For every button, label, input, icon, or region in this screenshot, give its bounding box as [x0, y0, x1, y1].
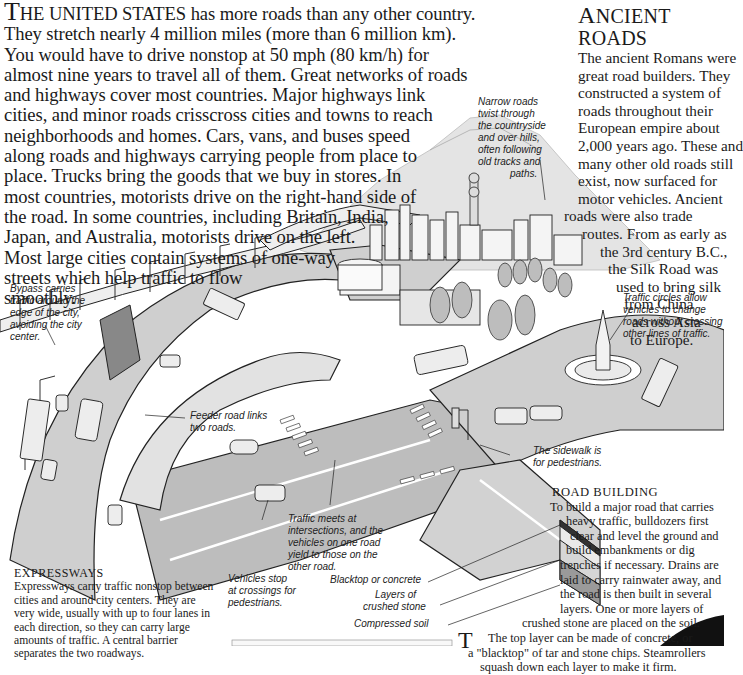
caption-line: center. — [10, 331, 85, 343]
caption-line: and over hills, — [478, 132, 546, 144]
caption-line: twist through — [478, 108, 546, 120]
intro-line: You would have to drive nonstop at 50 mp… — [4, 45, 564, 65]
caption-line: vehicles on one road — [288, 537, 383, 549]
ancient-line: European empire about — [578, 119, 724, 137]
road-building-line: clear and level the ground and — [570, 529, 724, 544]
caption-line: edge of the city, — [10, 307, 85, 319]
caption-blacktop: Blacktop or concrete — [330, 574, 421, 586]
ancient-line: motor vehicles. Ancient — [578, 190, 724, 208]
caption-crushed-stone: Layers of crushed stone — [363, 589, 426, 613]
ancient-line: roads throughout their — [578, 102, 724, 120]
road-building-line: layers. One or more layers of — [560, 602, 724, 617]
ancient-roads-title: ANCIENT ROADS — [578, 4, 724, 49]
expressways-line: cities and around city centers. They are — [14, 594, 254, 607]
caption-line: traffic around the — [10, 295, 85, 307]
road-building-line: The top layer can be made of concrete, o… — [488, 631, 724, 646]
expressways-line: amounts of traffic. A central barrier — [14, 634, 254, 647]
expressways-line: each direction, so they can carry large — [14, 621, 254, 634]
caption-feeder-road: Feeder road links two roads. — [190, 410, 267, 434]
caption-line: Feeder road links — [190, 410, 267, 422]
road-building-line: a "blacktop" of tar and stone chips. Ste… — [468, 646, 724, 661]
caption-compressed-soil: Compressed soil — [354, 618, 428, 630]
caption-line: crushed stone — [363, 601, 426, 613]
road-building-section: ROAD BUILDING To build a major road that… — [488, 485, 724, 675]
caption-line: other lines of traffic. — [623, 328, 723, 340]
caption-sidewalk: The sidewalk is for pedestrians. — [533, 445, 602, 469]
caption-line: avoiding the city — [10, 319, 85, 331]
caption-line: roads without crossing — [623, 316, 723, 328]
caption-narrow-roads: Narrow roads twist through the countrysi… — [478, 96, 546, 180]
ancient-line: The ancient Romans were — [578, 49, 724, 67]
caption-line: Traffic meets at — [288, 513, 383, 525]
road-building-line: trenches if necessary. Drains are — [560, 558, 724, 573]
ancient-line: the Silk Road was — [608, 260, 724, 278]
caption-line: Layers of — [375, 589, 426, 601]
road-building-line: crushed stone are placed on the soil. — [522, 616, 724, 631]
car-feeder — [230, 440, 258, 454]
road-building-line: heavy traffic, bulldozers first — [566, 514, 724, 529]
ancient-line: the 3rd century B.C., — [600, 243, 724, 261]
intro-dropcap: T — [4, 0, 20, 26]
car-right — [530, 406, 562, 420]
caption-traffic-meets: Traffic meets at intersections, and the … — [288, 513, 383, 573]
caption-line: often following — [478, 144, 546, 156]
road-building-line: To build a major road that carries — [550, 500, 724, 515]
intro-line: smoothly. — [4, 288, 564, 308]
road-building-title: ROAD BUILDING — [552, 485, 724, 500]
intro-smallcaps: HE UNITED STATES — [20, 3, 186, 24]
intro-line: Most large cities contain systems of one… — [4, 248, 564, 268]
caption-line: old tracks and — [478, 156, 546, 168]
intro-line: streets which help traffic to flow — [4, 268, 564, 288]
road-building-line: the road is then built in several — [560, 587, 724, 602]
ancient-line: constructed a system of — [578, 84, 724, 102]
intro-line: Japan, and Australia, motorists drive on… — [4, 227, 564, 247]
intro-line: has more roads than any other country. — [186, 3, 475, 24]
road-building-line: build embankments or dig — [566, 543, 724, 558]
ancient-line: routes. From as early as — [582, 225, 724, 243]
expressways-line: very wide, usually with up to four lanes… — [14, 607, 254, 620]
van-right — [495, 408, 527, 424]
caption-line: Narrow roads — [478, 96, 546, 108]
ancient-line: exist, now surfaced for — [578, 172, 724, 190]
expressways-line: Expressways carry traffic nonstop betwee… — [14, 580, 254, 593]
intro-line: the road. In some countries, including B… — [4, 207, 564, 227]
caption-line: yield to those on the — [288, 549, 383, 561]
caption-line: Traffic circles allow — [623, 292, 723, 304]
expressways-section: EXPRESSWAYS Expressways carry traffic no… — [14, 567, 254, 661]
road-building-line: laid to carry rainwater away, and — [560, 573, 724, 588]
ancient-line: many other old roads still — [578, 155, 724, 173]
title-cap: A — [578, 2, 596, 28]
next-illustration-frame — [232, 640, 452, 646]
car-intersection — [255, 485, 285, 501]
road-building-line: squash down each layer to make it firm. — [480, 660, 724, 675]
intro-line: most countries, motorists drive on the r… — [4, 187, 564, 207]
caption-line: intersections, and the — [288, 525, 383, 537]
caption-line: vehicles to change — [623, 304, 723, 316]
caption-line: the countryside — [478, 120, 546, 132]
intro-line: almost nine years to travel all of them.… — [4, 65, 564, 85]
caption-traffic-circles: Traffic circles allow vehicles to change… — [623, 292, 723, 340]
ancient-line: great road builders. They — [578, 67, 724, 85]
caption-line: Bypass carries — [10, 283, 85, 295]
caption-bypass: Bypass carries traffic around the edge o… — [10, 283, 85, 343]
intro-line: They stretch nearly 4 million miles (mor… — [4, 24, 564, 44]
bus-city — [413, 345, 468, 375]
ancient-line: 2,000 years ago. These and — [578, 137, 724, 155]
ancient-line: roads were also trade — [564, 207, 724, 225]
caption-line: The sidewalk is — [533, 445, 602, 457]
caption-line: for pedestrians. — [533, 457, 602, 469]
next-section-dropcap: T — [458, 628, 473, 652]
expressways-line: separates the two roadways. — [14, 647, 254, 660]
caption-line: two roads. — [190, 422, 267, 434]
caption-line: other road. — [288, 561, 383, 573]
expressways-title: EXPRESSWAYS — [14, 567, 254, 580]
caption-line: paths. — [510, 168, 546, 180]
